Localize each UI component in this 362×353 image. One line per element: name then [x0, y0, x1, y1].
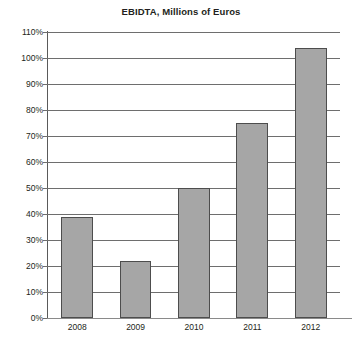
- x-axis-tick-label: 2012: [286, 323, 336, 332]
- y-axis-tick-label: 110%: [3, 28, 43, 37]
- y-axis-tick: [43, 266, 48, 267]
- y-axis-tick-label: 100%: [3, 54, 43, 63]
- y-axis-tick: [43, 292, 48, 293]
- bar[interactable]: [120, 261, 152, 318]
- y-axis-tick-label: 70%: [3, 132, 43, 141]
- plot-area: [48, 32, 340, 318]
- bar[interactable]: [295, 48, 327, 318]
- x-axis-tick-label: 2010: [169, 323, 219, 332]
- y-axis-tick-label: 80%: [3, 106, 43, 115]
- y-axis-tick: [43, 58, 48, 59]
- y-axis-tick-label: 40%: [3, 210, 43, 219]
- y-axis-tick-label: 30%: [3, 236, 43, 245]
- y-axis-tick: [43, 110, 48, 111]
- y-axis-tick-label: 50%: [3, 184, 43, 193]
- bar[interactable]: [236, 123, 268, 318]
- x-axis-tick-label: 2009: [111, 323, 161, 332]
- chart-container: EBIDTA, Millions of Euros 0%10%20%30%40%…: [0, 0, 362, 353]
- y-axis-tick: [43, 32, 48, 33]
- chart-title: EBIDTA, Millions of Euros: [0, 6, 362, 17]
- y-axis-tick: [43, 162, 48, 163]
- y-axis-tick-label: 90%: [3, 80, 43, 89]
- y-axis-tick-label: 10%: [3, 288, 43, 297]
- x-axis-tick-label: 2008: [52, 323, 102, 332]
- y-axis-tick-label: 0%: [3, 314, 43, 323]
- y-axis-tick-label: 60%: [3, 158, 43, 167]
- bar[interactable]: [61, 217, 93, 318]
- y-axis-tick: [43, 188, 48, 189]
- x-axis-line: [47, 318, 352, 319]
- y-axis-tick: [43, 136, 48, 137]
- y-axis-tick: [43, 84, 48, 85]
- x-axis-tick-label: 2011: [227, 323, 277, 332]
- y-axis-tick: [43, 214, 48, 215]
- bar[interactable]: [178, 188, 210, 318]
- y-axis-tick: [43, 240, 48, 241]
- y-axis-tick-label: 20%: [3, 262, 43, 271]
- gridline: [48, 32, 340, 33]
